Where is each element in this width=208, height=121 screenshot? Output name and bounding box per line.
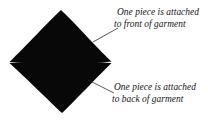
annotation-front-line-1: One piece is attached — [117, 7, 199, 17]
annotation-back-line-2: to back of garment — [112, 94, 196, 106]
annotation-front-of-garment: One piece is attached to front of garmen… — [117, 7, 199, 30]
annotation-back-of-garment: One piece is attached to back of garment — [114, 82, 196, 105]
annotation-back-line-1: One piece is attached — [114, 82, 196, 92]
garment-piece-diagram-figure: One piece is attached to front of garmen… — [0, 0, 208, 121]
annotation-front-line-2: to front of garment — [114, 19, 199, 31]
